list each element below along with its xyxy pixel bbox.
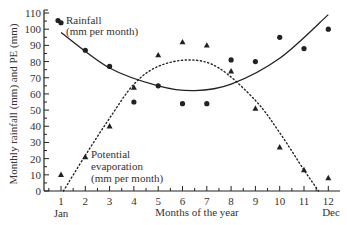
rainfall-point	[156, 83, 161, 88]
pe-point	[131, 84, 137, 89]
rainfall-point	[180, 101, 185, 106]
pe-annotation: Potential evaporation (mm per month)	[91, 148, 163, 185]
pe-point	[58, 172, 64, 177]
x-tick-label: 1	[58, 195, 64, 207]
rainfall-point	[229, 57, 234, 62]
pe-point	[155, 52, 161, 57]
pe-point	[82, 154, 88, 159]
y-tick-label: 20	[30, 153, 42, 165]
x-label-jan: Jan	[54, 207, 69, 219]
x-tick-label: 3	[107, 195, 113, 207]
pe-point	[325, 175, 331, 180]
pe-point	[228, 68, 234, 73]
y-tick-label: 70	[30, 72, 42, 84]
y-tick-label: 110	[25, 7, 42, 19]
rainfall-label-line2: (mm per month)	[66, 25, 138, 38]
x-tick-label: 11	[299, 195, 310, 207]
pe-point	[301, 167, 307, 172]
pe-label-line1: Potential	[91, 148, 130, 160]
y-tick-label: 10	[30, 169, 42, 181]
rainfall-point	[277, 35, 282, 40]
pe-point	[277, 144, 283, 149]
rainfall-point	[131, 99, 136, 104]
y-tick-label: 30	[30, 136, 42, 148]
rainfall-point	[83, 48, 88, 53]
y-tick-label: 60	[30, 88, 42, 100]
y-axis-label: Monthly rainfall (mm) and PE (mm)	[7, 23, 20, 184]
x-tick-label: 2	[83, 195, 89, 207]
pe-point	[107, 123, 113, 128]
pe-label-line3: (mm per month)	[91, 172, 163, 185]
x-tick-label: 10	[274, 195, 286, 207]
x-tick-label: 4	[131, 195, 137, 207]
y-tick-label: 80	[30, 56, 42, 68]
rainfall-point	[253, 59, 258, 64]
rainfall-legend-marker	[55, 18, 60, 23]
x-tick-label: 9	[253, 195, 259, 207]
pe-point	[252, 105, 258, 110]
rainfall-point	[326, 27, 331, 32]
y-tick-label: 40	[30, 120, 42, 132]
x-axis-label: Months of the year	[155, 206, 239, 218]
y-tick-label: 100	[25, 23, 42, 35]
rainfall-point	[204, 101, 209, 106]
rainfall-point	[301, 46, 306, 51]
pe-point	[204, 42, 210, 47]
rainfall-point	[107, 64, 112, 69]
y-tick-label: 90	[30, 39, 42, 51]
pe-point	[180, 39, 186, 44]
chart-canvas: 0102030405060708090100110123456789101112…	[0, 0, 347, 225]
pe-label-line2: evaporation	[91, 160, 143, 172]
rainfall-annotation: Rainfall (mm per month)	[66, 14, 138, 38]
x-label-dec: Dec	[322, 206, 340, 218]
y-tick-label: 0	[36, 185, 42, 197]
y-tick-label: 50	[30, 104, 42, 116]
